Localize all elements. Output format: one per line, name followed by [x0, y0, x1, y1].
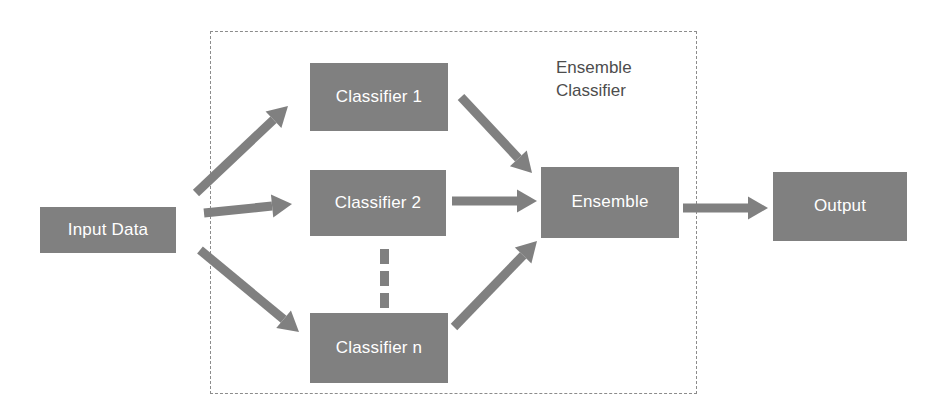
diagram-canvas: Ensemble Classifier Input Data Classifie…: [0, 0, 933, 418]
input-to-classifier1: [193, 106, 288, 196]
input-to-classifiern: [197, 247, 299, 332]
classifiern-to-ensemble: [451, 241, 537, 330]
node-classifier-1[interactable]: Classifier 1: [310, 63, 448, 131]
input-to-classifier2: [204, 195, 292, 218]
ellipsis-dot: [380, 249, 389, 264]
classifier2-to-ensemble: [452, 190, 537, 213]
classifier1-to-ensemble: [458, 94, 532, 173]
node-classifier-2[interactable]: Classifier 2: [310, 170, 446, 236]
node-output[interactable]: Output: [773, 172, 907, 241]
ellipsis-dot: [380, 293, 389, 308]
node-classifier-n[interactable]: Classifier n: [310, 313, 448, 383]
ensemble-to-output: [683, 197, 768, 220]
ellipsis-dot: [380, 271, 389, 286]
node-ensemble[interactable]: Ensemble: [541, 167, 679, 238]
node-input-data[interactable]: Input Data: [40, 207, 176, 253]
